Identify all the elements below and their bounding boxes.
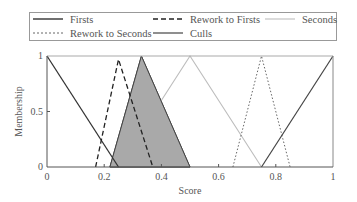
legend-label-rework-seconds: Rework to Seconds	[70, 28, 152, 39]
x-axis-label: Score	[179, 185, 202, 196]
legend-label-culls: Culls	[190, 28, 212, 39]
x-tick-label: 0.8	[270, 171, 283, 182]
x-tick-label: 0.4	[155, 171, 168, 182]
series-rework-to-seconds	[233, 56, 290, 167]
x-tick-label: 0.6	[212, 171, 225, 182]
legend-label-firsts: Firsts	[70, 14, 93, 25]
y-axis: 0 0.5 1 Membership	[13, 50, 50, 172]
x-tick-label: 1	[331, 171, 336, 182]
legend-label-seconds: Seconds	[302, 14, 337, 25]
legend-label-rework-firsts: Rework to Firsts	[190, 14, 260, 25]
y-tick-label: 0	[38, 161, 43, 172]
y-tick-label: 1	[38, 50, 43, 61]
x-tick-label: 0.2	[98, 171, 111, 182]
series-culls	[262, 56, 334, 167]
plot-area	[47, 56, 333, 167]
x-tick-label: 0	[45, 171, 50, 182]
y-tick-label: 0.5	[31, 106, 44, 117]
legend: Firsts Rework to Firsts Seconds Rework t…	[30, 13, 338, 41]
y-axis-label: Membership	[13, 86, 24, 137]
membership-chart: Firsts Rework to Firsts Seconds Rework t…	[0, 0, 357, 202]
x-axis: 0 0.2 0.4 0.6 0.8 1 Score	[45, 164, 336, 196]
shaded-triangle-overlay	[110, 56, 190, 167]
